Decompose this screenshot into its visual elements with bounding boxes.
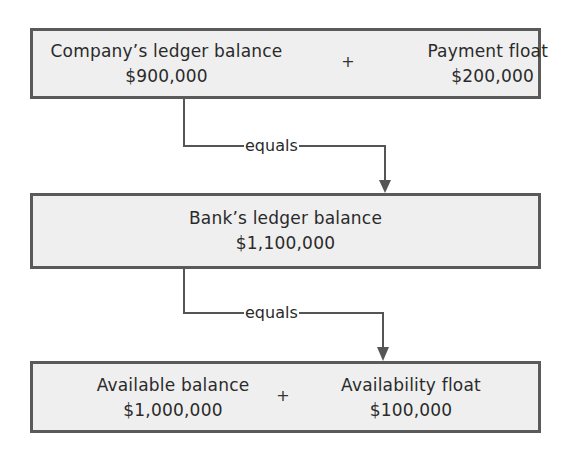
term-label: Company’s ledger balance xyxy=(39,39,294,64)
term-label: Bank’s ledger balance xyxy=(33,206,538,231)
company-ledger-box: Company’s ledger balance $900,000 + Paym… xyxy=(30,28,541,99)
availability-float-term: Availability float $100,000 xyxy=(321,373,501,423)
term-value: $1,000,000 xyxy=(73,398,273,423)
equals-label: equals xyxy=(244,137,299,155)
bank-ledger-box: Bank’s ledger balance $1,100,000 xyxy=(30,193,541,269)
company-ledger-balance-term: Company’s ledger balance $900,000 xyxy=(39,39,294,89)
term-label: Payment float xyxy=(378,39,548,64)
payment-float-term: Payment float $200,000 xyxy=(378,39,548,89)
available-balance-term: Available balance $1,000,000 xyxy=(73,373,273,423)
term-value: $1,100,000 xyxy=(33,231,538,256)
equals-label: equals xyxy=(244,304,299,322)
arrow-down-icon xyxy=(379,180,391,193)
term-label: Available balance xyxy=(73,373,273,398)
plus-operator: + xyxy=(275,388,291,404)
available-balance-box: Available balance $1,000,000 + Availabil… xyxy=(30,361,541,433)
arrow-down-icon xyxy=(377,347,389,361)
term-value: $100,000 xyxy=(321,398,501,423)
bank-ledger-balance-term: Bank’s ledger balance $1,100,000 xyxy=(33,206,538,256)
term-label: Availability float xyxy=(321,373,501,398)
term-value: $200,000 xyxy=(378,64,548,89)
term-value: $900,000 xyxy=(39,64,294,89)
plus-operator: + xyxy=(340,54,356,70)
